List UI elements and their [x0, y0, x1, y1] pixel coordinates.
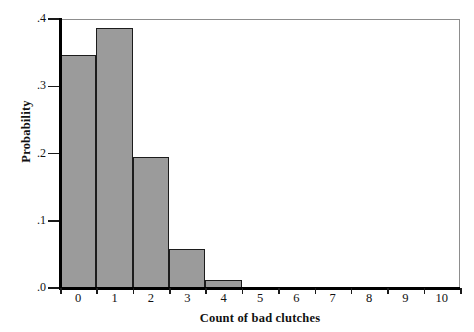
y-tick-label: .1 — [20, 213, 46, 228]
x-tick-label: 10 — [427, 291, 457, 306]
x-tick-mark — [351, 288, 353, 294]
y-axis-line — [59, 18, 62, 289]
y-tick-label: .2 — [20, 146, 46, 161]
x-axis-line — [59, 287, 460, 290]
histogram-bar — [169, 249, 205, 288]
histogram-bar — [60, 55, 96, 288]
x-axis-title: Count of bad clutches — [60, 311, 460, 326]
x-tick-label: 1 — [100, 291, 130, 306]
x-tick-mark — [96, 288, 98, 294]
x-tick-mark — [278, 288, 280, 294]
x-tick-label: 9 — [390, 291, 420, 306]
x-tick-mark — [205, 288, 207, 294]
x-tick-label: 0 — [63, 291, 93, 306]
x-tick-mark — [424, 288, 426, 294]
x-tick-mark — [60, 288, 62, 294]
x-tick-label: 5 — [245, 291, 275, 306]
x-tick-label: 7 — [318, 291, 348, 306]
histogram-chart: Probability .0.1.2.3.4 012345678910 Coun… — [0, 0, 474, 332]
x-tick-label: 4 — [209, 291, 239, 306]
x-tick-label: 8 — [354, 291, 384, 306]
y-tick-label: .4 — [20, 11, 46, 26]
y-tick-label: .3 — [20, 78, 46, 93]
x-tick-mark — [315, 288, 317, 294]
x-tick-mark — [133, 288, 135, 294]
histogram-bar — [96, 28, 132, 288]
x-tick-mark — [387, 288, 389, 294]
x-tick-mark — [169, 288, 171, 294]
x-tick-mark — [460, 288, 462, 294]
x-tick-label: 6 — [281, 291, 311, 306]
histogram-bar — [133, 157, 169, 288]
x-tick-label: 2 — [136, 291, 166, 306]
x-tick-label: 3 — [172, 291, 202, 306]
x-tick-mark — [242, 288, 244, 294]
y-tick-label: .0 — [20, 280, 46, 295]
